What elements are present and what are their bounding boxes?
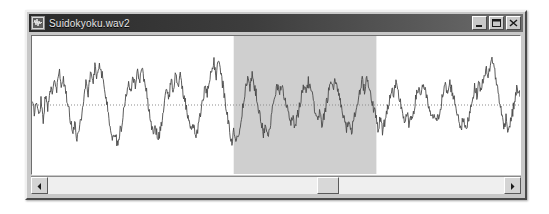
horizontal-scrollbar[interactable] bbox=[31, 176, 521, 194]
maximize-button[interactable] bbox=[489, 16, 504, 30]
minimize-button[interactable] bbox=[472, 16, 487, 30]
wave-editor-window: Suidokyoku.wav2 bbox=[25, 10, 527, 200]
scrollbar-thumb[interactable] bbox=[317, 177, 339, 194]
titlebar[interactable]: Suidokyoku.wav2 bbox=[29, 14, 523, 32]
scroll-right-button[interactable] bbox=[504, 177, 521, 194]
window-title: Suidokyoku.wav2 bbox=[49, 18, 472, 29]
window-controls bbox=[472, 16, 521, 30]
close-button[interactable] bbox=[506, 16, 521, 30]
waveform-plot bbox=[32, 36, 521, 174]
scrollbar-track[interactable] bbox=[48, 177, 504, 194]
scroll-left-button[interactable] bbox=[31, 177, 48, 194]
client-area bbox=[31, 35, 521, 194]
screenshot-canvas: Suidokyoku.wav2 bbox=[0, 0, 549, 214]
waveform-app-icon bbox=[31, 16, 45, 30]
waveform-display[interactable] bbox=[31, 35, 521, 175]
